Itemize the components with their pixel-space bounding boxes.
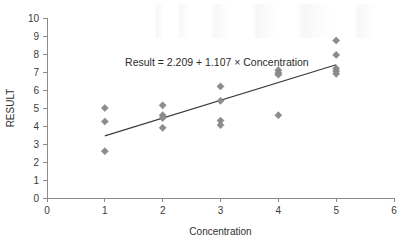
y-tick-label: 2 <box>33 157 39 168</box>
regression-equation-label: Result = 2.209 + 1.107 × Concentration <box>125 56 309 68</box>
x-tick-label: 5 <box>333 205 339 216</box>
y-axis-title: RESULT <box>5 89 16 128</box>
y-axis-ticks: 012345678910 <box>28 13 47 204</box>
data-point-marker <box>101 118 108 125</box>
y-tick-label: 4 <box>33 121 39 132</box>
data-point-markers <box>101 37 340 155</box>
y-tick-label: 10 <box>28 13 40 24</box>
y-tick-label: 6 <box>33 85 39 96</box>
data-point-marker <box>101 104 108 111</box>
scatter-plot-figure: 012345678910 0123456 Result = 2.209 + 1.… <box>0 0 405 248</box>
data-point-marker <box>333 37 340 44</box>
y-tick-label: 1 <box>33 175 39 186</box>
y-tick-label: 0 <box>33 193 39 204</box>
data-point-marker <box>101 148 108 155</box>
y-tick-label: 9 <box>33 31 39 42</box>
y-tick-label: 3 <box>33 139 39 150</box>
x-tick-label: 2 <box>160 205 166 216</box>
data-point-marker <box>217 97 224 104</box>
x-tick-label: 6 <box>391 205 397 216</box>
data-point-marker <box>333 51 340 58</box>
x-tick-label: 1 <box>102 205 108 216</box>
data-point-marker <box>217 83 224 90</box>
y-tick-label: 5 <box>33 103 39 114</box>
x-tick-label: 0 <box>44 205 50 216</box>
x-tick-label: 3 <box>218 205 224 216</box>
x-axis-title: Concentration <box>189 226 251 237</box>
chart-canvas: 012345678910 0123456 Result = 2.209 + 1.… <box>0 0 405 248</box>
x-tick-label: 4 <box>276 205 282 216</box>
data-point-marker <box>159 102 166 109</box>
y-tick-label: 8 <box>33 49 39 60</box>
data-point-marker <box>159 124 166 131</box>
y-tick-label: 7 <box>33 67 39 78</box>
x-axis-ticks: 0123456 <box>44 198 397 216</box>
data-point-marker <box>217 122 224 129</box>
data-point-marker <box>275 112 282 119</box>
